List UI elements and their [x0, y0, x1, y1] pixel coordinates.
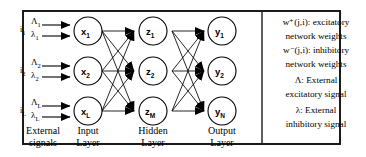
node-label-xL: xL — [81, 107, 90, 119]
legend-line-4: network weights — [266, 60, 366, 69]
legend-line-2: network weights — [266, 32, 366, 41]
signal-inhibitory-2: λ2 — [31, 71, 39, 82]
node-label-x2: x2 — [81, 67, 90, 79]
node-label-yN: yN — [215, 107, 225, 119]
legend-line-5: Λ: External — [266, 76, 366, 85]
legend-line-7: λ: External — [266, 106, 366, 115]
legend-line-3: w⁻(j,i): inhibitory — [266, 46, 366, 55]
node-label-y1: y1 — [215, 27, 224, 39]
signal-index-2: i2 — [20, 67, 25, 77]
caption-hidden-line2: Layer — [122, 138, 184, 148]
signal-excitatory-2: Λ2 — [31, 58, 41, 69]
caption-output-line1: Output — [191, 126, 253, 136]
signal-excitatory-L: ΛL — [31, 98, 42, 109]
legend-line-6: excitatory signal — [266, 90, 366, 99]
node-label-y2: y2 — [215, 67, 224, 79]
signal-arrows — [42, 25, 70, 117]
caption-input-line2: Layer — [57, 138, 119, 148]
legend-line-1: w⁺(j,i): excitatory — [266, 18, 366, 27]
node-label-zM: zM — [145, 107, 155, 119]
signal-excitatory-1: Λ1 — [31, 17, 41, 28]
caption-input-line1: Input — [57, 126, 119, 136]
hidden-output-edges — [172, 31, 204, 111]
signal-index-L: iL — [20, 107, 26, 117]
caption-output-line2: Layer — [191, 138, 253, 148]
node-label-x1: x1 — [81, 27, 90, 39]
node-label-z2: z2 — [146, 67, 154, 79]
diagram-root: i1 Λ1 λ1 i2 Λ2 λ2 iL ΛL λL x1 x2 xL z1 z… — [0, 0, 366, 157]
node-label-z1: z1 — [146, 27, 154, 39]
signal-inhibitory-L: λL — [31, 111, 39, 122]
input-hidden-edges — [102, 31, 134, 111]
legend-line-8: inhibitory signal — [266, 120, 366, 129]
signal-inhibitory-1: λ1 — [31, 30, 39, 41]
caption-hidden-line1: Hidden — [122, 126, 184, 136]
signal-index-1: i1 — [20, 26, 25, 36]
